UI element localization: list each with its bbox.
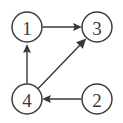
node-1-label: 1 xyxy=(22,18,32,39)
node-1[interactable]: 1 xyxy=(12,12,42,42)
node-2[interactable]: 2 xyxy=(82,84,112,114)
graph-canvas: 1 3 4 2 xyxy=(0,0,123,123)
edge-4-to-3-line xyxy=(38,45,80,89)
graph-figure: 1 3 4 2 xyxy=(0,0,123,123)
edge-1-to-3 xyxy=(43,23,83,31)
node-3-label: 3 xyxy=(92,18,102,39)
node-2-label: 2 xyxy=(92,90,102,111)
node-3[interactable]: 3 xyxy=(82,12,112,42)
node-4[interactable]: 4 xyxy=(12,84,42,114)
edge-2-to-4 xyxy=(42,95,82,103)
node-4-label: 4 xyxy=(22,90,32,111)
edge-4-to-3 xyxy=(38,39,86,89)
edge-4-to-1 xyxy=(23,44,31,84)
